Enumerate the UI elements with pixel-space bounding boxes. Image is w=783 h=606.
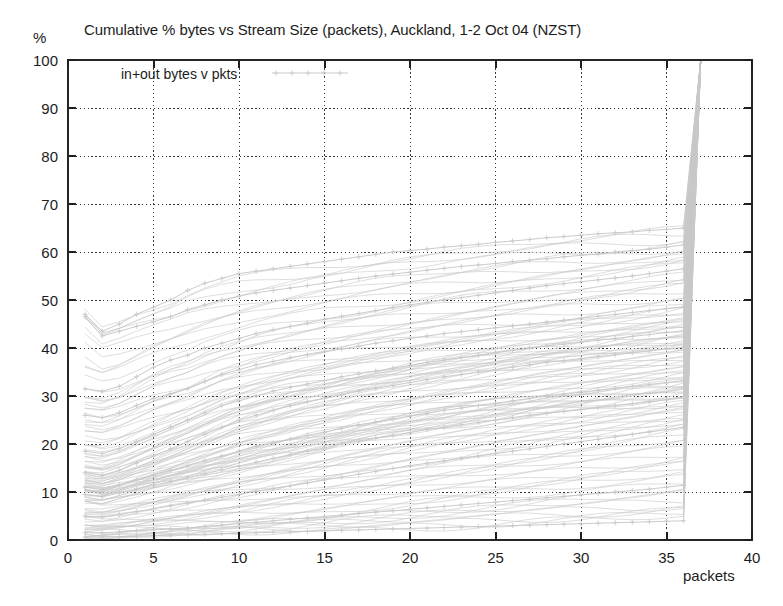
y-tick-label: 100 bbox=[16, 53, 58, 68]
x-tick-label: 10 bbox=[219, 550, 259, 565]
x-tick-label: 25 bbox=[476, 550, 516, 565]
y-tick-label: 70 bbox=[16, 197, 58, 212]
x-tick-label: 30 bbox=[561, 550, 601, 565]
x-tick-label: 35 bbox=[647, 550, 687, 565]
x-tick-label: 15 bbox=[305, 550, 345, 565]
chart-title: Cumulative % bytes vs Stream Size (packe… bbox=[84, 22, 581, 37]
x-tick-label: 40 bbox=[732, 550, 772, 565]
data-curves bbox=[83, 60, 701, 540]
y-tick-label: 10 bbox=[16, 485, 58, 500]
y-axis-unit-label: % bbox=[33, 30, 46, 45]
x-axis-title: packets bbox=[683, 568, 735, 583]
x-tick-label: 5 bbox=[134, 550, 174, 565]
x-tick-label: 0 bbox=[48, 550, 88, 565]
legend-entry-label: in+out bytes v pkts bbox=[121, 66, 237, 82]
y-tick-label: 60 bbox=[16, 245, 58, 260]
chart-figure: Cumulative % bytes vs Stream Size (packe… bbox=[0, 0, 783, 606]
chart-plot-area bbox=[0, 0, 783, 606]
x-tick-label: 20 bbox=[390, 550, 430, 565]
y-tick-label: 0 bbox=[16, 533, 58, 548]
y-tick-label: 80 bbox=[16, 149, 58, 164]
y-tick-label: 50 bbox=[16, 293, 58, 308]
y-tick-label: 30 bbox=[16, 389, 58, 404]
y-tick-label: 20 bbox=[16, 437, 58, 452]
legend-line-sample bbox=[272, 70, 348, 75]
y-tick-label: 90 bbox=[16, 101, 58, 116]
y-tick-label: 40 bbox=[16, 341, 58, 356]
